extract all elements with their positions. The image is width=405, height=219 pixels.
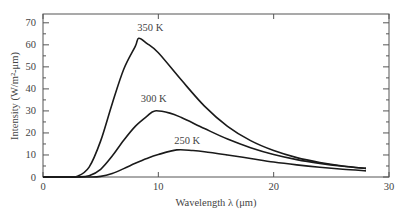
chart-svg: 0102030405060700102030 350 K300 K250 K W… [0, 0, 405, 219]
curve-label-250k: 250 K [174, 135, 200, 146]
curve-label-350k: 350 K [137, 22, 163, 33]
blackbody-intensity-chart: 0102030405060700102030 350 K300 K250 K W… [0, 0, 405, 219]
y-tick-label: 30 [26, 105, 37, 116]
y-tick-label: 10 [26, 149, 37, 160]
x-tick-label: 0 [40, 181, 45, 192]
curve-label-300k: 300 K [141, 93, 167, 104]
y-tick-label: 20 [26, 127, 37, 138]
x-axis-label: Wavelength λ (μm) [175, 197, 257, 209]
data-curves [43, 38, 366, 177]
curve-labels: 350 K300 K250 K [137, 22, 200, 146]
y-tick-label: 40 [26, 83, 37, 94]
y-tick-label: 50 [26, 61, 37, 72]
y-tick-label: 60 [26, 39, 37, 50]
y-tick-label: 0 [31, 172, 36, 183]
x-tick-label: 30 [384, 181, 395, 192]
y-axis-label: Intensity (W/m²-μm) [9, 52, 21, 140]
y-tick-label: 70 [26, 17, 37, 28]
curve-350k [43, 38, 366, 177]
x-tick-label: 20 [268, 181, 279, 192]
x-tick-label: 10 [153, 181, 164, 192]
